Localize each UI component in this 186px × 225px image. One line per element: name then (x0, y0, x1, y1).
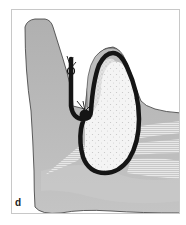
panel-label: d (15, 198, 21, 208)
anatomical-diagram (12, 10, 180, 214)
figure-frame (11, 9, 180, 214)
suture-knot-lower (80, 110, 91, 121)
